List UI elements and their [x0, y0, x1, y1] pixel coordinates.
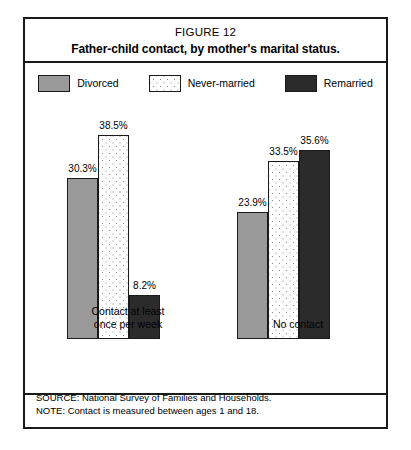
plot-area: 30.3% 38.5% 8.2% Contact at least once p…	[25, 103, 386, 395]
bar-slot-divorced: 30.3%	[67, 101, 98, 339]
bar-group-bars: 23.9% 33.5% 35.6%	[237, 101, 330, 339]
axis-label-no-contact: No contact	[223, 318, 373, 331]
bar-slot-remarried: 35.6%	[299, 101, 330, 339]
bar-value-never-married: 33.5%	[269, 146, 297, 157]
chart-legend: Divorced Never-married Remarried	[25, 63, 386, 103]
bar-group-contact-weekly: 30.3% 38.5% 8.2% Contact at least once p…	[67, 101, 189, 339]
page-title: Father-child contact, by mother's marita…	[25, 41, 386, 57]
legend-item-never-married: Never-married	[149, 75, 255, 92]
bar-remarried[interactable]	[299, 150, 330, 339]
bar-never-married[interactable]	[268, 161, 299, 339]
legend-label-divorced: Divorced	[77, 77, 118, 89]
figure-number: FIGURE 12	[25, 25, 386, 40]
bar-slot-never-married: 33.5%	[268, 101, 299, 339]
legend-label-remarried: Remarried	[324, 77, 373, 89]
legend-swatch-remarried-icon	[285, 75, 317, 92]
bar-group-bars: 30.3% 38.5% 8.2%	[67, 101, 160, 339]
footer-notes: SOURCE: National Survey of Families and …	[25, 383, 386, 427]
bar-value-divorced: 23.9%	[238, 197, 266, 208]
legend-item-divorced: Divorced	[38, 75, 118, 92]
source-note: SOURCE: National Survey of Families and …	[36, 391, 386, 404]
bar-slot-never-married: 38.5%	[98, 101, 129, 339]
bar-group-no-contact: 23.9% 33.5% 35.6% No contact	[237, 101, 359, 339]
bar-value-never-married: 38.5%	[99, 120, 127, 131]
legend-swatch-divorced-icon	[38, 75, 70, 92]
axis-label-line1: Contact at least	[53, 305, 203, 318]
legend-item-remarried: Remarried	[285, 75, 373, 92]
axis-label-line2: once per week	[53, 318, 203, 331]
figure-frame: FIGURE 12 Father-child contact, by mothe…	[23, 17, 388, 429]
bar-slot-remarried: 8.2%	[129, 101, 160, 339]
bar-value-remarried: 8.2%	[133, 280, 156, 291]
figure-title-block: FIGURE 12 Father-child contact, by mothe…	[25, 19, 386, 63]
legend-swatch-never-married-icon	[149, 75, 181, 92]
legend-label-never-married: Never-married	[188, 77, 255, 89]
axis-label-contact-weekly: Contact at least once per week	[53, 305, 203, 331]
bar-slot-divorced: 23.9%	[237, 101, 268, 339]
measurement-note: NOTE: Contact is measured between ages 1…	[36, 404, 386, 417]
bar-value-remarried: 35.6%	[300, 135, 328, 146]
axis-label-line1: No contact	[223, 318, 373, 331]
bar-value-divorced: 30.3%	[68, 163, 96, 174]
